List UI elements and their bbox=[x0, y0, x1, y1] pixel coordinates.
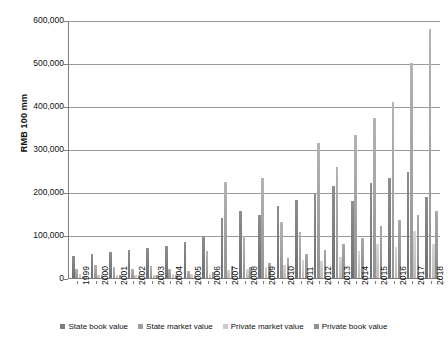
bar bbox=[317, 143, 320, 278]
x-axis-tick-label: 2017 bbox=[416, 266, 426, 285]
x-axis-tick-label: 2001 bbox=[119, 266, 129, 285]
bar bbox=[373, 118, 376, 278]
bar bbox=[261, 178, 264, 278]
x-axis-tick-label: 2018 bbox=[435, 266, 445, 285]
x-axis-tick-label: 2016 bbox=[398, 266, 408, 285]
bar-group bbox=[422, 21, 441, 278]
x-axis-tick-mark bbox=[282, 281, 283, 284]
bar bbox=[150, 266, 153, 278]
bar-group bbox=[385, 21, 404, 278]
x-axis-tick-label: 2005 bbox=[193, 266, 203, 285]
bar-group bbox=[404, 21, 423, 278]
bar bbox=[184, 242, 187, 278]
bar bbox=[75, 269, 78, 278]
chart-legend: State book valueState market valuePrivat… bbox=[0, 322, 448, 331]
legend-label: State book value bbox=[68, 322, 128, 331]
bar-group bbox=[348, 21, 367, 278]
bar bbox=[277, 206, 280, 278]
bar-group bbox=[329, 21, 348, 278]
x-axis-tick-mark bbox=[319, 281, 320, 284]
y-axis-tick-label: 300,000 bbox=[0, 144, 64, 154]
x-axis-tick-mark bbox=[77, 281, 78, 284]
bar bbox=[72, 256, 75, 278]
x-axis-tick-label: 2015 bbox=[379, 266, 389, 285]
x-axis-tick-mark bbox=[133, 281, 134, 284]
legend-item[interactable]: State market value bbox=[138, 322, 213, 331]
x-axis-tick-mark bbox=[208, 281, 209, 284]
bar-group bbox=[311, 21, 330, 278]
bar bbox=[314, 194, 317, 278]
x-axis-tick-mark bbox=[263, 281, 264, 284]
y-axis-tick-label: 500,000 bbox=[0, 58, 64, 68]
x-axis-tick-mark bbox=[115, 281, 116, 284]
bar bbox=[187, 271, 190, 278]
bar-series-container bbox=[69, 21, 440, 278]
x-axis-tick-mark bbox=[96, 281, 97, 284]
x-axis-tick-labels: 1999200020012002200320042005200620072008… bbox=[68, 281, 440, 315]
bar-group bbox=[88, 21, 107, 278]
x-axis-tick-label: 2007 bbox=[230, 266, 240, 285]
bar bbox=[370, 183, 373, 278]
x-axis-tick-label: 2014 bbox=[360, 266, 370, 285]
bar-group bbox=[292, 21, 311, 278]
x-axis-tick-label: 2009 bbox=[267, 266, 277, 285]
x-axis-tick-mark bbox=[226, 281, 227, 284]
bar-group bbox=[162, 21, 181, 278]
bar-group bbox=[236, 21, 255, 278]
bar bbox=[354, 135, 357, 278]
x-axis-tick-mark bbox=[152, 281, 153, 284]
bar bbox=[392, 102, 395, 278]
x-axis-tick-mark bbox=[431, 281, 432, 284]
bar bbox=[94, 265, 97, 278]
bar-group bbox=[181, 21, 200, 278]
y-axis-tick-label: 100,000 bbox=[0, 230, 64, 240]
bar-group bbox=[274, 21, 293, 278]
legend-label: State market value bbox=[146, 322, 213, 331]
x-axis-tick-label: 2008 bbox=[249, 266, 259, 285]
bar bbox=[410, 63, 413, 278]
x-axis-tick-mark bbox=[356, 281, 357, 284]
x-axis-tick-label: 2004 bbox=[174, 266, 184, 285]
x-axis-tick-label: 2003 bbox=[156, 266, 166, 285]
y-axis-tick-label: 200,000 bbox=[0, 187, 64, 197]
y-axis-tick-mark bbox=[63, 279, 68, 280]
bar-group bbox=[218, 21, 237, 278]
bar-group bbox=[143, 21, 162, 278]
bar bbox=[131, 269, 134, 278]
x-axis-tick-label: 2010 bbox=[286, 266, 296, 285]
x-axis-tick-label: 2013 bbox=[342, 266, 352, 285]
x-axis-tick-mark bbox=[412, 281, 413, 284]
bar bbox=[336, 167, 339, 278]
legend-item[interactable]: State book value bbox=[60, 322, 128, 331]
legend-item[interactable]: Private book value bbox=[314, 322, 388, 331]
bar-group bbox=[106, 21, 125, 278]
x-axis-tick-label: 2002 bbox=[137, 266, 147, 285]
x-axis-tick-label: 2011 bbox=[305, 267, 315, 285]
x-axis-tick-label: 2006 bbox=[212, 266, 222, 285]
bar-group bbox=[69, 21, 88, 278]
bar bbox=[243, 236, 246, 278]
x-axis-tick-mark bbox=[338, 281, 339, 284]
legend-swatch-icon bbox=[314, 324, 319, 329]
legend-item[interactable]: Private market value bbox=[223, 322, 304, 331]
y-axis-tick-label: 600,000 bbox=[0, 15, 64, 25]
legend-label: Private book value bbox=[322, 322, 388, 331]
x-axis-tick-label: 1999 bbox=[81, 266, 91, 285]
legend-swatch-icon bbox=[223, 324, 228, 329]
legend-swatch-icon bbox=[138, 324, 143, 329]
x-axis-tick-mark bbox=[245, 281, 246, 284]
bar-group bbox=[125, 21, 144, 278]
bar bbox=[206, 251, 209, 278]
x-axis-tick-mark bbox=[189, 281, 190, 284]
bar-group bbox=[199, 21, 218, 278]
bar bbox=[91, 254, 94, 278]
x-axis-tick-mark bbox=[375, 281, 376, 284]
x-axis-tick-label: 2000 bbox=[100, 266, 110, 285]
legend-label: Private market value bbox=[231, 322, 304, 331]
bar bbox=[299, 232, 302, 278]
y-axis-tick-label: 400,000 bbox=[0, 101, 64, 111]
legend-swatch-icon bbox=[60, 324, 65, 329]
bar bbox=[388, 178, 391, 278]
bar bbox=[407, 172, 410, 278]
bar bbox=[429, 29, 432, 278]
